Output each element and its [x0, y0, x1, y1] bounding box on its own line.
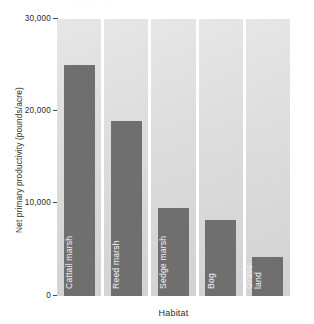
plot-area: Cattail marshReed marshSedge marshBogGra… [57, 19, 290, 296]
bar-cell: Grass-land [246, 19, 290, 296]
bar-cell: Bog [199, 19, 243, 296]
chart-figure: · · · · Net primary productivity (pounds… [0, 0, 314, 324]
bar-cell: Sedge marsh [151, 19, 195, 296]
y-axis-tick-label: 30,000 [6, 14, 58, 23]
bar-cell: Reed marsh [104, 19, 148, 296]
bar[interactable]: Grass-land [252, 257, 283, 296]
bar[interactable]: Sedge marsh [158, 208, 189, 296]
bar[interactable]: Reed marsh [111, 121, 142, 296]
x-axis-title: Habitat [57, 308, 290, 318]
y-axis-tick-label: 20,000 [6, 106, 58, 115]
y-axis-tick-label: 0 [6, 291, 58, 300]
y-axis-tick-label: 10,000 [6, 198, 58, 207]
bar[interactable]: Bog [205, 220, 236, 296]
bar-cell: Cattail marsh [57, 19, 101, 296]
bar[interactable]: Cattail marsh [64, 65, 95, 296]
scan-artifact: · · · · [72, 0, 142, 9]
y-axis-title: Net primary productivity (pounds/acre) [14, 55, 24, 265]
